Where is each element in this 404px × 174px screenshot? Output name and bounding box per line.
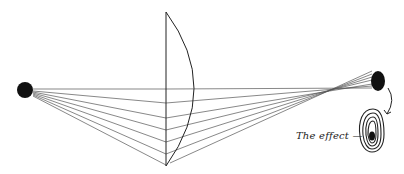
lens-diagram (0, 0, 404, 174)
image-point (371, 71, 385, 91)
incident-rays (33, 89, 166, 165)
effect-center (369, 132, 375, 141)
effect-rings (360, 109, 384, 152)
refracted-rays (166, 71, 372, 163)
curved-arrow-icon (384, 88, 392, 114)
source-point (17, 82, 33, 98)
effect-caption: The effect — (296, 130, 363, 141)
